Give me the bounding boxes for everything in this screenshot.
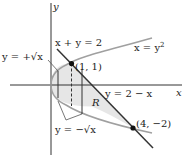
lower-branch-label: y = −√x xyxy=(54,124,96,135)
line-alt-label: y = 2 − x xyxy=(104,88,152,99)
point-label-1-1: (1, 1) xyxy=(75,61,102,72)
y-axis-label: y xyxy=(52,1,59,12)
parabola-label: x = y2 xyxy=(134,41,165,53)
line-label: x + y = 2 xyxy=(55,37,102,48)
region-diagram: y x x + y = 2 x = y2 y = +√x (1, 1) y = … xyxy=(0,0,192,165)
upper-branch-label: y = +√x xyxy=(1,51,43,62)
region-label: R xyxy=(91,97,100,108)
point-4-neg2 xyxy=(130,125,135,130)
leader-upper xyxy=(48,60,58,71)
x-axis-label: x xyxy=(176,87,182,98)
point-1-1 xyxy=(69,61,74,66)
point-label-4-neg2: (4, −2) xyxy=(136,118,171,129)
